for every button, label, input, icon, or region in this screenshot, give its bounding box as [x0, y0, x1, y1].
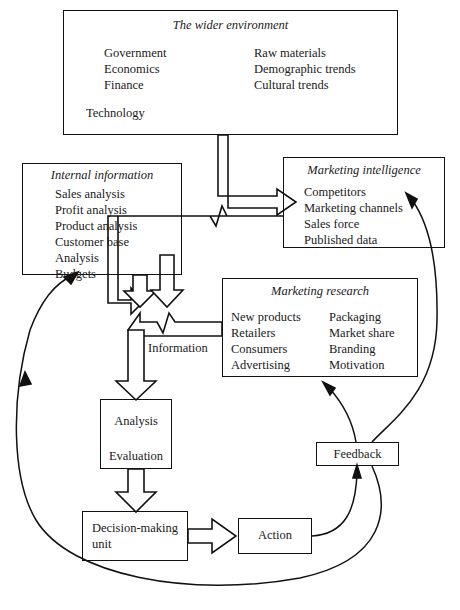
decision-making-unit-line2: unit	[83, 537, 187, 553]
decision-making-unit-line1: Decision-making	[83, 521, 187, 537]
list-item: Marketing channels	[304, 200, 444, 216]
list-item: New products	[231, 309, 329, 325]
internal-information-title: Internal information	[23, 168, 181, 184]
connector-feedback-to-marketing-research	[329, 388, 356, 442]
box-wider-environment: The wider environment Government Economi…	[63, 10, 398, 135]
list-item: Customer base	[55, 234, 181, 250]
wider-environment-columns: Government Economics Finance Raw materia…	[64, 45, 397, 93]
list-item: Finance	[104, 77, 254, 93]
analysis-label: Analysis	[101, 413, 171, 429]
list-item: Budgets	[55, 266, 181, 282]
list-item: Raw materials	[254, 45, 356, 61]
list-item: Government	[104, 45, 254, 61]
list-item: Branding	[329, 341, 395, 357]
wider-environment-title: The wider environment	[64, 18, 397, 34]
marketing-research-title: Marketing research	[223, 284, 417, 300]
list-item: Consumers	[231, 341, 329, 357]
box-feedback: Feedback	[316, 442, 399, 466]
evaluation-label: Evaluation	[101, 448, 171, 464]
information-channel-label: Information	[146, 341, 210, 356]
wider-environment-right-column: Raw materials Demographic trends Cultura…	[254, 45, 356, 93]
marketing-research-left-column: New products Retailers Consumers Adverti…	[231, 309, 329, 373]
box-marketing-intelligence: Marketing intelligence Competitors Marke…	[283, 157, 445, 248]
list-item: Sales analysis	[55, 186, 181, 202]
list-item: Market share	[329, 325, 395, 341]
arrowhead-feedback-loop-mid	[20, 372, 31, 386]
list-item: Demographic trends	[254, 61, 356, 77]
arrowhead-action-to-feedback	[353, 465, 361, 478]
list-item: Economics	[104, 61, 254, 77]
box-marketing-research: Marketing research New products Retailer…	[222, 278, 418, 377]
connector-analysis-to-dmu	[116, 469, 156, 512]
list-item: Profit analysis	[55, 202, 181, 218]
box-decision-making-unit: Decision-making unit	[82, 511, 188, 561]
list-item: Competitors	[304, 184, 444, 200]
marketing-research-right-column: Packaging Market share Branding Motivati…	[329, 309, 395, 373]
list-item: Analysis	[55, 250, 181, 266]
connector-action-to-feedback	[312, 472, 357, 536]
list-item: Sales force	[304, 216, 444, 232]
marketing-research-columns: New products Retailers Consumers Adverti…	[223, 309, 417, 373]
internal-information-list: Sales analysis Profit analysis Product a…	[23, 186, 181, 282]
box-analysis-evaluation: Analysis Evaluation	[100, 399, 172, 469]
wider-environment-technology: Technology	[64, 105, 397, 121]
list-item: Cultural trends	[254, 77, 356, 93]
marketing-intelligence-title: Marketing intelligence	[284, 163, 444, 179]
feedback-label: Feedback	[317, 446, 398, 462]
action-label: Action	[239, 527, 311, 543]
list-item: Published data	[304, 232, 444, 248]
list-item: Retailers	[231, 325, 329, 341]
list-item: Advertising	[231, 357, 329, 373]
box-internal-information: Internal information Sales analysis Prof…	[22, 163, 182, 275]
box-action: Action	[238, 518, 312, 554]
wider-environment-left-column: Government Economics Finance	[104, 45, 254, 93]
list-item: Packaging	[329, 309, 395, 325]
list-item: Motivation	[329, 357, 395, 373]
marketing-intelligence-list: Competitors Marketing channels Sales for…	[284, 184, 444, 248]
connector-dmu-to-action	[188, 519, 236, 553]
list-item: Product analysis	[55, 218, 181, 234]
